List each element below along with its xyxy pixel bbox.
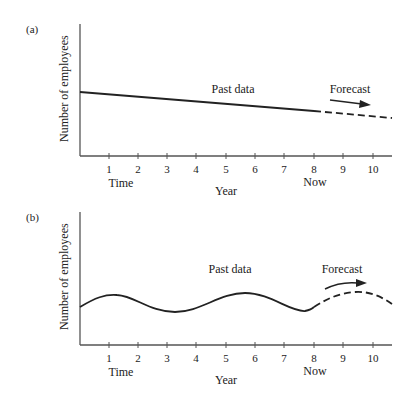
arrowhead-icon bbox=[356, 279, 367, 287]
now-label-a: Now bbox=[303, 175, 327, 189]
past-data-label-b: Past data bbox=[209, 262, 253, 276]
tick-label: 8 bbox=[311, 163, 317, 175]
forecast-line-a bbox=[314, 111, 392, 118]
tick-label: 8 bbox=[311, 352, 317, 364]
y-axis-label-b: Number of employees bbox=[57, 223, 71, 330]
tick-label: 3 bbox=[164, 352, 170, 364]
tick-label: 2 bbox=[135, 163, 141, 175]
tick-label: 5 bbox=[223, 352, 229, 364]
past-data-line-a bbox=[80, 92, 314, 111]
tick-label: 1 bbox=[106, 352, 112, 364]
tick-label: 9 bbox=[340, 163, 346, 175]
forecast-label-b: Forecast bbox=[322, 262, 363, 276]
tick-label: 5 bbox=[223, 163, 229, 175]
tick-label: 7 bbox=[281, 163, 287, 175]
tick-label: 3 bbox=[164, 163, 170, 175]
past-data-label-a: Past data bbox=[212, 82, 256, 96]
tick-label: 2 bbox=[135, 352, 141, 364]
tick-label: 6 bbox=[252, 163, 258, 175]
now-label-b: Now bbox=[303, 364, 327, 378]
past-data-curve-b bbox=[80, 293, 314, 312]
tick-label: 10 bbox=[368, 352, 380, 364]
time-label-a: Time bbox=[109, 176, 134, 190]
forecast-curve-b bbox=[314, 292, 392, 307]
tick-label: 7 bbox=[281, 352, 287, 364]
tick-label: 10 bbox=[368, 163, 380, 175]
tick-label: 6 bbox=[252, 352, 258, 364]
panel-label-a: (a) bbox=[26, 23, 39, 36]
chart-b-svg: (b) Number of employees 1 2 3 4 5 6 7 8 … bbox=[0, 189, 413, 399]
x-tick-labels-b: 1 2 3 4 5 6 7 8 9 10 bbox=[106, 352, 379, 364]
x-tick-labels-a: 1 2 3 4 5 6 7 8 9 10 bbox=[106, 163, 379, 175]
tick-label: 4 bbox=[193, 352, 199, 364]
panel-label-b: (b) bbox=[26, 211, 39, 224]
y-axis-label-a: Number of employees bbox=[57, 35, 71, 142]
tick-label: 9 bbox=[340, 352, 346, 364]
tick-label: 1 bbox=[106, 163, 112, 175]
chart-a-svg: (a) Number of employees 1 2 3 4 5 6 7 8 bbox=[0, 0, 413, 199]
forecast-label-a: Forecast bbox=[330, 82, 371, 96]
forecast-arrow-b bbox=[325, 283, 358, 289]
forecast-arrow-a bbox=[330, 100, 362, 104]
chart-panel-a: (a) Number of employees 1 2 3 4 5 6 7 8 bbox=[0, 0, 413, 199]
chart-panel-b: (b) Number of employees 1 2 3 4 5 6 7 8 … bbox=[0, 189, 413, 399]
arrowhead-icon bbox=[359, 100, 371, 108]
tick-label: 4 bbox=[193, 163, 199, 175]
time-label-b: Time bbox=[109, 365, 134, 379]
x-axis-label-b: Year bbox=[215, 373, 237, 387]
